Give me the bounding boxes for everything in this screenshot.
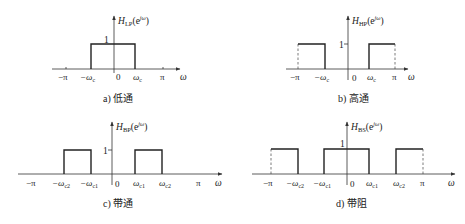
- tick-neg-pi: −π: [58, 72, 68, 82]
- y-label: HBP(ejω): [115, 121, 147, 133]
- tick-zero: 0: [115, 179, 120, 189]
- passband-rect-right: [135, 150, 162, 174]
- passband-rect: [91, 44, 135, 69]
- y-tick-one: 1: [339, 40, 344, 50]
- tick-zero: 0: [116, 72, 121, 82]
- tick-wc: ωc: [367, 72, 376, 83]
- tick-pi: π: [420, 178, 425, 188]
- x-label-omega: ω: [215, 178, 222, 188]
- caption-c: c) 带通: [103, 198, 133, 210]
- tick-neg-pi: −π: [290, 72, 300, 82]
- passband-rect-left: [64, 150, 91, 174]
- caption-b: b) 高通: [338, 92, 369, 105]
- tick-neg-wc: −ωc: [314, 72, 329, 83]
- tick-wc2: ωc2: [393, 178, 405, 189]
- tick-neg-wc: −ωc: [80, 72, 95, 83]
- tick-neg-wc1: −ωc1: [80, 178, 98, 189]
- panel-bandpass: HBP(ejω) 1 −π −ωc2 −ωc1 0 ωc1 ωc2 π ω c)…: [18, 121, 222, 210]
- y-tick-one: 1: [104, 35, 109, 45]
- tick-wc1: ωc1: [133, 178, 145, 189]
- panel-lowpass: HLP(ejω) 1 −π −ωc 0 ωc π ω a) 低通: [52, 15, 187, 105]
- caption-d: d) 带阻: [336, 198, 367, 210]
- passband-rect-right: [369, 44, 395, 69]
- filter-diagrams: HLP(ejω) 1 −π −ωc 0 ωc π ω a) 低通 HHP(ejω…: [0, 0, 465, 224]
- passband-rect-right: [396, 149, 423, 174]
- tick-pi: π: [196, 178, 201, 188]
- tick-neg-wc2: −ωc2: [52, 178, 70, 189]
- tick-pi: π: [160, 72, 165, 82]
- y-tick-one: 1: [103, 146, 108, 156]
- tick-wc: ωc: [133, 72, 142, 83]
- tick-zero: 0: [352, 73, 357, 83]
- tick-wc1: ωc1: [366, 178, 378, 189]
- passband-rect-center: [324, 149, 369, 174]
- tick-wc2: ωc2: [159, 178, 171, 189]
- passband-rect-left: [271, 149, 298, 174]
- tick-neg-pi: −π: [26, 178, 36, 188]
- panel-bandstop: HBS(ejω) 1 −π −ωc2 −ωc1 0 ωc1 ωc2 π ω d)…: [252, 121, 455, 210]
- caption-a: a) 低通: [103, 92, 133, 105]
- x-label-omega: ω: [180, 72, 187, 82]
- tick-neg-pi: −π: [263, 178, 273, 188]
- panel-highpass: HHP(ejω) 1 −π −ωc 0 ωc π ω b) 高通: [286, 15, 415, 105]
- y-label: HLP(ejω): [117, 15, 149, 27]
- tick-zero: 0: [350, 179, 355, 189]
- passband-rect-left: [298, 44, 325, 69]
- x-label-omega: ω: [448, 178, 455, 188]
- y-label: HHP(ejω): [351, 15, 384, 27]
- x-label-omega: ω: [408, 72, 415, 82]
- tick-neg-wc1: −ωc1: [313, 178, 331, 189]
- y-tick-one: 1: [340, 139, 345, 149]
- tick-neg-wc2: −ωc2: [286, 178, 304, 189]
- tick-pi: π: [392, 72, 397, 82]
- y-label: HBS(ejω): [350, 121, 382, 133]
